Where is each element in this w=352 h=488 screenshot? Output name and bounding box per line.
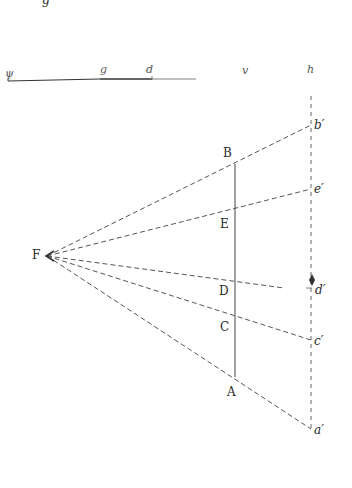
ray-b [47, 125, 311, 256]
top-fragment-text: g [42, 0, 50, 7]
label-d-prime: d′ [315, 283, 326, 297]
label-focus: F [32, 248, 40, 262]
scale-label-psi: ψ [5, 67, 14, 80]
scale-label-g: g [100, 63, 107, 76]
label-a: A [226, 385, 236, 399]
label-e-prime: e′ [314, 182, 324, 196]
scale-bar [8, 76, 196, 81]
ray-d [47, 256, 284, 288]
label-c: C [220, 320, 229, 334]
rays [47, 125, 311, 429]
scale-label-d: d [146, 63, 153, 76]
label-e: E [220, 217, 229, 231]
label-b: B [223, 146, 232, 160]
label-d: D [219, 284, 229, 298]
label-b-prime: b′ [314, 118, 325, 132]
ray-e [47, 189, 311, 256]
ray-c [47, 256, 311, 340]
label-c-prime: c′ [314, 334, 324, 348]
ray-a [47, 256, 311, 429]
optics-diagram: g ψ g d v h F [0, 0, 352, 488]
label-a-prime: a′ [314, 423, 324, 437]
scale-label-v: v [242, 64, 249, 77]
scale-label-h: h [307, 63, 314, 76]
